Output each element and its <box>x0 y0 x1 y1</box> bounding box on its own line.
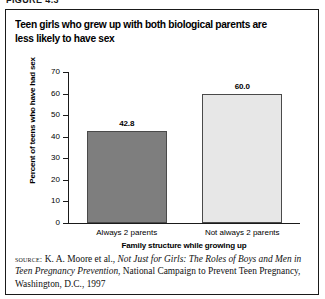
y-tick-label-20: 20 <box>51 175 60 184</box>
x-axis-title: Family structure while growing up <box>68 241 300 250</box>
x-category-label: Not always 2 parents <box>178 228 306 237</box>
source-note: source: K. A. Moore et al., Not Just for… <box>15 253 311 290</box>
bar[interactable] <box>87 131 167 223</box>
x-axis-line <box>68 223 300 224</box>
figure-number: FIGURE 4.3 <box>6 0 59 4</box>
y-tick-label-70: 70 <box>51 67 60 76</box>
x-category-label: Always 2 parents <box>63 228 191 237</box>
bar-value-label: 60.0 <box>202 82 282 91</box>
bar[interactable] <box>202 94 282 223</box>
y-tick-label-40: 40 <box>51 132 60 141</box>
y-tick-label-50: 50 <box>51 110 60 119</box>
y-tick-30: 30 <box>63 158 68 159</box>
figure-root: FIGURE 4.3 Teen girls who grew up with b… <box>0 0 325 299</box>
y-tick-0: 0 <box>63 223 68 224</box>
y-axis-title: Percent of teens who have had sex <box>28 51 37 191</box>
axes: 706050403020100 42.8Always 2 parents60.0… <box>68 72 300 223</box>
plot-area: Percent of teens who have had sex 706050… <box>6 54 318 248</box>
bar-group: 60.0Not always 2 parents <box>202 72 282 223</box>
y-tick-60: 60 <box>63 94 68 95</box>
chart-title: Teen girls who grew up with both biologi… <box>15 18 287 45</box>
y-tick-label-10: 10 <box>51 196 60 205</box>
y-tick-label-30: 30 <box>51 153 60 162</box>
y-tick-50: 50 <box>63 115 68 116</box>
bar-value-label: 42.8 <box>87 119 167 128</box>
source-lead: K. A. Moore et al., <box>42 254 117 264</box>
y-tick-70: 70 <box>63 72 68 73</box>
y-tick-label-60: 60 <box>51 89 60 98</box>
y-tick-40: 40 <box>63 137 68 138</box>
y-tick-20: 20 <box>63 180 68 181</box>
figure-frame: Teen girls who grew up with both biologi… <box>5 9 319 295</box>
bar-series: 42.8Always 2 parents60.0Not always 2 par… <box>69 72 300 223</box>
source-kicker: source: <box>15 254 42 264</box>
y-tick-10: 10 <box>63 201 68 202</box>
bar-group: 42.8Always 2 parents <box>87 72 167 223</box>
y-tick-label-0: 0 <box>56 218 60 227</box>
